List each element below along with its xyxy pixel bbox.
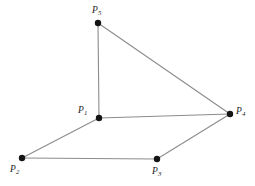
edge-p1-p4 — [99, 114, 230, 118]
edge-p5-p1 — [98, 23, 99, 118]
vertex-label-p4: P4 — [236, 107, 245, 117]
vertex-label-sub-p1: 1 — [84, 109, 88, 116]
edge-p3-p4 — [157, 114, 230, 159]
vertex-label-p5: P5 — [92, 6, 101, 16]
edge-p2-p3 — [22, 158, 157, 159]
vertex-dot-p4[interactable] — [227, 111, 233, 117]
vertex-label-sub-p5: 5 — [98, 9, 102, 16]
vertices-group — [19, 20, 233, 162]
vertex-label-p2: P2 — [10, 165, 19, 175]
vertex-dot-p2[interactable] — [19, 155, 25, 161]
vertex-label-sub-p4: 4 — [242, 110, 246, 117]
edges-group — [22, 23, 230, 159]
vertex-dot-p1[interactable] — [96, 115, 102, 121]
point-graph-figure — [0, 0, 255, 186]
edge-p5-p4 — [98, 23, 230, 114]
vertex-label-p3: P3 — [152, 167, 161, 177]
vertex-label-sub-p2: 2 — [16, 168, 20, 175]
edge-p1-p2 — [22, 118, 99, 158]
vertex-dot-p3[interactable] — [154, 156, 160, 162]
vertex-label-p1: P1 — [78, 106, 87, 116]
diagram-canvas: P1P2P3P4P5 — [0, 0, 255, 186]
vertex-dot-p5[interactable] — [95, 20, 101, 26]
vertex-label-sub-p3: 3 — [158, 170, 162, 177]
